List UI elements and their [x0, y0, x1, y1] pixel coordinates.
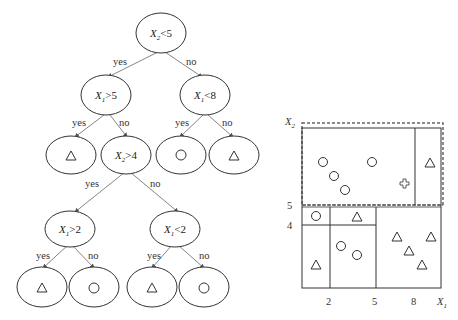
leaf-triangle — [46, 136, 96, 174]
leaf-circle — [156, 136, 206, 174]
triangle-icon — [404, 246, 414, 255]
x-axis-label: X1 — [436, 296, 447, 310]
leaf-triangle — [127, 267, 177, 307]
circle-icon — [341, 186, 350, 195]
y-tick-5: 5 — [287, 200, 292, 211]
y-axis-label: X2 — [284, 116, 295, 130]
triangle-icon — [311, 260, 321, 269]
x-tick-2: 2 — [326, 296, 331, 307]
decision-tree-diagram: yes no yes no yes no yes no yes no yes n… — [0, 0, 458, 320]
triangle-icon — [352, 212, 362, 221]
leaf-circle — [179, 267, 229, 307]
x-tick-5: 5 — [372, 296, 377, 307]
triangle-icon — [392, 232, 402, 241]
circle-icon — [353, 251, 362, 260]
svg-text:yes: yes — [72, 117, 86, 128]
svg-text:no: no — [119, 117, 130, 128]
svg-text:no: no — [186, 56, 197, 67]
partition-plot: X2 5 4 2 5 8 X1 — [284, 116, 447, 310]
cross-icon — [400, 179, 409, 188]
leaf-triangle — [209, 136, 259, 174]
circle-icon — [368, 158, 377, 167]
svg-text:yes: yes — [147, 250, 161, 261]
svg-text:yes: yes — [85, 178, 99, 189]
circle-icon — [330, 172, 339, 181]
x-tick-8: 8 — [411, 296, 416, 307]
triangle-icon — [417, 260, 427, 269]
triangle-icon — [426, 232, 436, 241]
svg-text:yes: yes — [175, 117, 189, 128]
svg-text:no: no — [199, 250, 210, 261]
svg-text:no: no — [150, 178, 161, 189]
svg-text:yes: yes — [113, 56, 127, 67]
svg-text:no: no — [88, 250, 99, 261]
circle-icon — [337, 242, 346, 251]
svg-text:yes: yes — [36, 250, 50, 261]
svg-text:no: no — [222, 117, 233, 128]
circle-icon — [312, 212, 321, 221]
triangle-icon — [425, 158, 435, 167]
circle-icon — [319, 158, 328, 167]
leaf-triangle — [17, 267, 67, 307]
y-tick-4: 4 — [287, 220, 293, 231]
leaf-circle — [69, 267, 119, 307]
